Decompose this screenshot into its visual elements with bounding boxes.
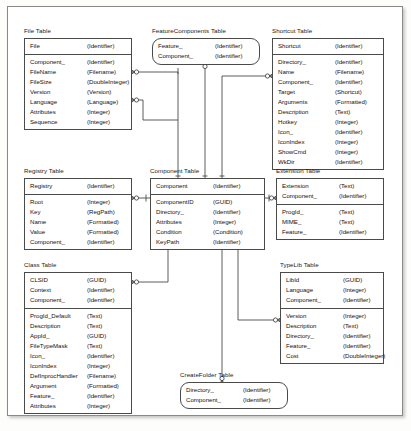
entity-box-registry: Registry (Identifier) Root (Integer) Key… — [24, 178, 132, 250]
field-name: Argument — [30, 381, 56, 391]
field-row: Name (Formatted) — [25, 217, 131, 227]
field-row: MIME_ (Text) — [277, 217, 383, 227]
entity-box-extension: Extension (Text) Component_ (Identifier)… — [276, 178, 384, 240]
field-type: (Identifier) — [243, 385, 270, 395]
key-section-registry: Registry (Identifier) — [25, 179, 131, 195]
field-row: Feature_ (Identifier) — [153, 41, 259, 51]
field-type: (Identifier) — [213, 237, 240, 247]
field-name: DefInprocHandler — [30, 371, 78, 381]
field-name: Directory_ — [286, 331, 314, 341]
field-type: (Identifier) — [215, 51, 242, 61]
field-name: Component_ — [186, 395, 221, 405]
field-row: Directory_ (Identifier) — [281, 331, 383, 341]
field-type: (Text) — [335, 107, 350, 117]
field-name: ShowCmd — [278, 147, 306, 157]
field-name: Component_ — [30, 57, 65, 67]
entity-createfolder-table[interactable]: CreateFolder Table Directory_ (Identifie… — [180, 382, 288, 409]
entity-featurecomponents-table[interactable]: FeatureComponents Table Feature_ (Identi… — [152, 38, 260, 65]
field-name: Component_ — [158, 51, 193, 61]
field-name: FileName — [30, 67, 56, 77]
field-type: (Identifier) — [87, 295, 114, 305]
entity-registry-table[interactable]: Registry Table Registry (Identifier) Roo… — [24, 178, 132, 250]
entity-box-component: Component (Identifier) ComponentID (GUID… — [150, 178, 265, 250]
field-type: (DoubleInteger) — [343, 351, 385, 361]
attribute-section-component: ComponentID (GUID) Directory_ (Identifie… — [151, 195, 264, 250]
field-name: Component_ — [278, 77, 313, 87]
field-row: Component_ (Identifier) — [25, 237, 131, 247]
field-type: (Identifier) — [339, 227, 366, 237]
field-name: AppId_ — [30, 331, 49, 341]
entity-shortcut-table[interactable]: Shortcut Table Shortcut (Identifier) Dir… — [272, 38, 384, 170]
field-row: Argument (Formatted) — [25, 381, 131, 391]
field-type: (GUID) — [87, 275, 106, 285]
field-row: Feature_ (Identifier) — [277, 227, 383, 237]
attribute-section-typelib: Version (Integer) Description (Text) Dir… — [281, 309, 383, 364]
key-section-extension: Extension (Text) Component_ (Identifier) — [277, 179, 383, 205]
field-row: KeyPath (Identifier) — [151, 237, 264, 247]
entity-title-createfolder: CreateFolder Table — [180, 371, 233, 378]
field-row: IconIndex (Integer) — [273, 137, 383, 147]
entity-file-table[interactable]: File Table File (Identifier) Component_ … — [24, 38, 132, 130]
field-name: Version — [30, 87, 50, 97]
field-type: (Filename) — [335, 67, 364, 77]
field-name: Feature_ — [286, 341, 310, 351]
field-row: Feature_ (Identifier) — [25, 391, 131, 401]
entity-class-table[interactable]: Class Table CLSID (GUID) Context (Identi… — [24, 272, 132, 414]
field-name: LibId — [286, 275, 299, 285]
field-name: Shortcut — [278, 41, 301, 51]
field-name: FileSize — [30, 77, 52, 87]
field-row: Key (RegPath) — [25, 207, 131, 217]
field-name: Description — [278, 107, 308, 117]
field-row: Condition (Condition) — [151, 227, 264, 237]
entity-title-registry: Registry Table — [24, 167, 64, 174]
field-type: (Integer) — [87, 401, 110, 411]
field-type: (Identifier) — [335, 57, 362, 67]
entity-title-extension: Extension Table — [276, 167, 320, 174]
field-row: Version (Integer) — [281, 311, 383, 321]
field-name: Component_ — [286, 295, 321, 305]
field-type: (Integer) — [343, 311, 366, 321]
field-row: Target (Shortcut) — [273, 87, 383, 97]
field-row: Cost (DoubleInteger) — [281, 351, 383, 361]
field-name: Registry — [30, 181, 52, 191]
field-type: (Integer) — [343, 285, 366, 295]
field-type: (Identifier) — [87, 351, 114, 361]
field-row: FileName (Filename) — [25, 67, 131, 77]
field-name: Arguments — [278, 97, 307, 107]
field-type: (Identifier) — [335, 77, 362, 87]
field-name: File — [30, 41, 40, 51]
field-row: Component_ (Identifier) — [25, 57, 131, 67]
field-row: CLSID (GUID) — [25, 275, 131, 285]
field-row: Hotkey (Integer) — [273, 117, 383, 127]
field-name: Name — [278, 67, 294, 77]
field-row: FileTypeMask (Text) — [25, 341, 131, 351]
field-row: Directory_ (Identifier) — [273, 57, 383, 67]
attribute-section-class: ProgId_Default (Text) Description (Text)… — [25, 309, 131, 414]
entity-extension-table[interactable]: Extension Table Extension (Text) Compone… — [276, 178, 384, 240]
field-name: ProgId_ — [282, 207, 303, 217]
field-name: Hotkey — [278, 117, 297, 127]
entity-component-table[interactable]: Component Table Component (Identifier) C… — [150, 178, 265, 250]
field-type: (Identifier) — [215, 41, 242, 51]
field-name: Directory_ — [156, 207, 184, 217]
field-type: (Identifier) — [243, 395, 270, 405]
key-section-createfolder: Directory_ (Identifier) Component_ (Iden… — [181, 383, 287, 408]
field-name: Feature_ — [282, 227, 306, 237]
field-type: (Formatted) — [87, 381, 119, 391]
key-section-typelib: LibId (GUID) Language (Integer) Componen… — [281, 273, 383, 309]
er-diagram-canvas: File Table File (Identifier) Component_ … — [0, 0, 411, 431]
field-name: Component_ — [282, 191, 317, 201]
field-row: Attributes (Integer) — [25, 401, 131, 411]
field-type: (Text) — [343, 321, 358, 331]
field-type: (Integer) — [335, 137, 358, 147]
field-type: (Integer) — [87, 197, 110, 207]
field-name: IconIndex — [30, 361, 56, 371]
field-type: (Shortcut) — [335, 87, 362, 97]
field-name: Component_ — [30, 237, 65, 247]
field-row: Attributes (Integer) — [151, 217, 264, 227]
field-name: Version — [286, 311, 306, 321]
entity-box-class: CLSID (GUID) Context (Identifier) Compon… — [24, 272, 132, 414]
entity-typelib-table[interactable]: TypeLib Table LibId (GUID) Language (Int… — [280, 272, 384, 364]
field-row: FileSize (DoubleInteger) — [25, 77, 131, 87]
field-type: (Identifier) — [87, 285, 114, 295]
